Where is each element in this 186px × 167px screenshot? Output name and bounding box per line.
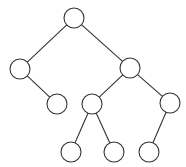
tree-node-RLR [104,142,124,162]
tree-edges [27,25,166,143]
tree-node-RLL [61,142,81,162]
tree-node-RR [160,93,180,113]
tree-edge-R-RL [99,75,122,97]
tree-node-L [10,59,30,79]
tree-node-LR [47,94,67,114]
tree-edge-RR-RRL [153,112,166,143]
tree-edge-R-RR [138,75,163,97]
tree-node-root [64,8,84,28]
tree-edge-RL-RLR [96,113,110,143]
tree-node-RL [82,94,102,114]
tree-node-RRL [139,142,159,162]
tree-edge-L-LR [27,76,49,97]
tree-edge-root-L [27,25,66,62]
tree-edge-RL-RLL [75,113,88,143]
tree-node-R [120,58,140,78]
tree-edge-root-R [81,25,122,62]
tree-diagram [0,0,186,167]
